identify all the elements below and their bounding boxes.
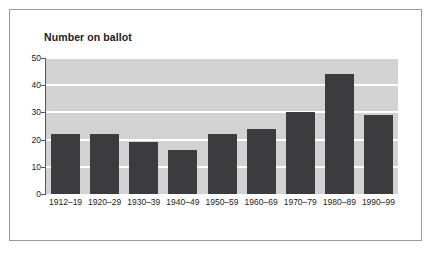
x-axis-tick-label: 1960–69 xyxy=(245,197,278,207)
bar xyxy=(286,112,315,194)
x-axis-tick-label: 1950–59 xyxy=(205,197,238,207)
x-axis-tick-label: 1940–49 xyxy=(166,197,199,207)
x-axis-tick-label: 1920–29 xyxy=(88,197,121,207)
bar xyxy=(129,142,158,194)
x-axis-tick-label: 1980–89 xyxy=(323,197,356,207)
gridline xyxy=(46,57,398,59)
x-axis-tick-label: 1970–79 xyxy=(284,197,317,207)
chart-title: Number on ballot xyxy=(44,31,132,43)
plot-area xyxy=(46,58,398,194)
y-axis-tick-labels: 01020304050 xyxy=(0,58,41,194)
x-axis-tick-label: 1930–39 xyxy=(127,197,160,207)
y-axis-tick-label: 30 xyxy=(32,107,41,117)
y-axis-line xyxy=(45,58,46,195)
bar xyxy=(364,115,393,194)
bar xyxy=(247,129,276,194)
y-axis-tick-mark xyxy=(41,58,45,59)
bar xyxy=(51,134,80,194)
y-axis-tick-mark xyxy=(41,140,45,141)
bar xyxy=(325,74,354,194)
y-axis-tick-label: 10 xyxy=(32,162,41,172)
y-axis-tick-mark xyxy=(41,194,45,195)
y-axis-tick-label: 20 xyxy=(32,135,41,145)
y-axis-tick-mark xyxy=(41,112,45,113)
y-axis-tick-label: 50 xyxy=(32,53,41,63)
chart-figure: Number on ballot 01020304050 1912–191920… xyxy=(0,0,434,260)
x-axis-tick-label: 1912–19 xyxy=(49,197,82,207)
x-axis-tick-label: 1990–99 xyxy=(362,197,395,207)
bar xyxy=(208,134,237,194)
x-axis-tick-labels: 1912–191920–291930–391940–491950–591960–… xyxy=(46,197,398,213)
bar xyxy=(168,150,197,194)
y-axis-tick-mark xyxy=(41,167,45,168)
y-axis-tick-label: 40 xyxy=(32,80,41,90)
bar xyxy=(90,134,119,194)
y-axis-tick-mark xyxy=(41,85,45,86)
